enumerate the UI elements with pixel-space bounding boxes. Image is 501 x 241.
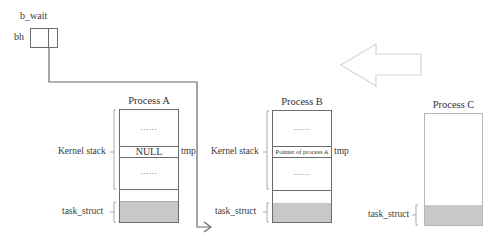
process-a-tmp-cell: NULL — [119, 146, 179, 157]
bh-pointer-box — [31, 29, 58, 48]
process-a-task-struct-label: task_struct — [62, 206, 103, 216]
process-b-kernel-stack-label: Kernel stack — [211, 146, 259, 156]
transition-arrow-icon — [341, 44, 421, 86]
process-c-title: Process C — [424, 99, 483, 110]
diagram-canvas — [0, 0, 501, 241]
process-a-kernel-stack-label: Kernel stack — [58, 146, 106, 156]
b-wait-label: b_wait — [20, 10, 47, 21]
process-b-task-struct-label: task_struct — [215, 206, 256, 216]
process-b-tmp-cell: Pointer of process A — [272, 148, 332, 155]
bh-label: bh — [14, 31, 24, 42]
process-a-upper-dots: ...... — [119, 122, 179, 132]
process-b-tmp-label: tmp — [334, 146, 349, 156]
process-b-lower-dots: ...... — [272, 167, 332, 177]
process-a-tmp-label: tmp — [181, 146, 196, 156]
process-a-lower-dots: ...... — [119, 166, 179, 176]
process-c-memory — [412, 114, 483, 226]
process-b-title: Process B — [272, 96, 332, 107]
process-a-title: Process A — [119, 95, 179, 106]
process-b-upper-dots: ...... — [272, 122, 332, 132]
process-c-task-struct-label: task_struct — [368, 209, 409, 219]
